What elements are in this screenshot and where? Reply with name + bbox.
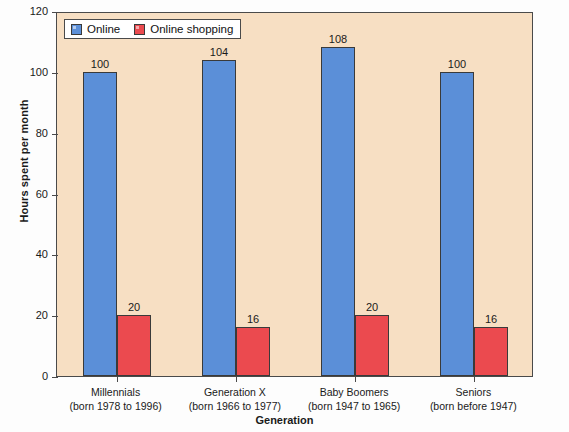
bar-online-shopping[interactable]: 16: [236, 327, 270, 376]
legend-entry-online-shopping[interactable]: Online shopping: [134, 23, 233, 35]
bar-online-shopping[interactable]: 16: [474, 327, 508, 376]
legend-swatch-online-icon: [71, 24, 82, 35]
x-group-label-name: Generation X: [204, 386, 266, 398]
bar-online[interactable]: 104: [202, 60, 236, 376]
x-tick-mark: [117, 376, 118, 382]
y-tick-mark: [52, 377, 58, 378]
bar-value-label: 108: [329, 33, 347, 45]
y-tick-mark: [52, 134, 58, 135]
bar-value-label: 104: [210, 46, 228, 58]
y-tick-mark: [52, 12, 58, 13]
bar-value-label: 16: [485, 313, 497, 325]
bar-value-label: 20: [128, 301, 140, 313]
y-tick-label: 0: [42, 370, 48, 382]
bar-value-label: 100: [91, 58, 109, 70]
y-tick-mark: [52, 73, 58, 74]
y-axis-title: Hours spent per month: [18, 71, 30, 251]
y-tick-label: 60: [36, 188, 48, 200]
y-tick-label: 120: [30, 5, 48, 17]
y-tick-label: 80: [36, 127, 48, 139]
x-group-label-name: Seniors: [456, 386, 492, 398]
y-tick-label: 100: [30, 66, 48, 78]
x-group-label-name: Baby Boomers: [320, 386, 389, 398]
bar-online-shopping[interactable]: 20: [117, 315, 151, 376]
bar-online-shopping[interactable]: 20: [355, 315, 389, 376]
x-group-label-name: Millennials: [91, 386, 140, 398]
x-tick-mark: [474, 376, 475, 382]
bar-value-label: 20: [366, 301, 378, 313]
y-tick-mark: [52, 195, 58, 196]
bar-online[interactable]: 100: [440, 72, 474, 376]
x-tick-mark: [355, 376, 356, 382]
chart-figure: Hours spent per month 020406080100120 10…: [0, 0, 569, 432]
x-tick-mark: [236, 376, 237, 382]
x-axis-title: Generation: [0, 414, 569, 426]
x-group-label-years: (born before 1947): [393, 399, 553, 413]
legend-swatch-online-shopping-icon: [134, 24, 145, 35]
y-tick-label: 20: [36, 309, 48, 321]
y-tick-label: 40: [36, 248, 48, 260]
bar-online[interactable]: 108: [321, 47, 355, 376]
bar-online[interactable]: 100: [83, 72, 117, 376]
chart-legend[interactable]: Online Online shopping: [64, 19, 241, 39]
y-tick-mark: [52, 255, 58, 256]
y-tick-mark: [52, 316, 58, 317]
x-group-label: Seniors(born before 1947): [393, 385, 553, 413]
bar-value-label: 100: [448, 58, 466, 70]
bar-value-label: 16: [247, 313, 259, 325]
legend-label-online-shopping: Online shopping: [150, 23, 233, 35]
legend-entry-online[interactable]: Online: [71, 23, 120, 35]
legend-label-online: Online: [87, 23, 120, 35]
plot-area: 020406080100120 10020104161082010016 Onl…: [56, 12, 533, 377]
